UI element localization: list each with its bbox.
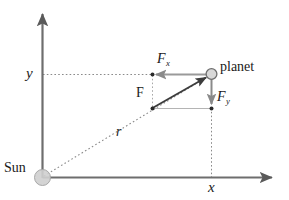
force-x-label: Fx bbox=[157, 52, 169, 66]
force-x-dot bbox=[151, 73, 155, 77]
force-origin-dot bbox=[151, 107, 155, 111]
force-y-dot bbox=[210, 107, 214, 111]
force-x-label-base: F bbox=[157, 51, 166, 66]
radius-label: r bbox=[116, 125, 121, 139]
y-axis-label: y bbox=[26, 66, 33, 81]
force-y-label-base: F bbox=[217, 89, 226, 104]
sun-body bbox=[35, 170, 51, 186]
diagram-canvas bbox=[0, 0, 289, 200]
force-x-label-subscript: x bbox=[166, 58, 170, 68]
force-label: F bbox=[136, 86, 144, 100]
x-axis-label: x bbox=[208, 180, 215, 195]
planet-label: planet bbox=[220, 60, 254, 74]
sun-label: Sun bbox=[4, 161, 26, 175]
force-vector-arrow bbox=[153, 78, 207, 109]
planet-body bbox=[206, 69, 217, 80]
force-y-label-subscript: y bbox=[226, 96, 230, 106]
planet-force-diagram: y x Sun planet r F Fx Fy bbox=[0, 0, 289, 200]
force-y-label: Fy bbox=[217, 90, 229, 104]
